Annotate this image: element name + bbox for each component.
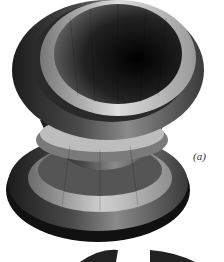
mesh-figure: [0, 0, 224, 262]
second-figure-partial: [80, 250, 195, 262]
upper-bulb: [12, 0, 204, 140]
panel-label: (a): [193, 150, 206, 162]
